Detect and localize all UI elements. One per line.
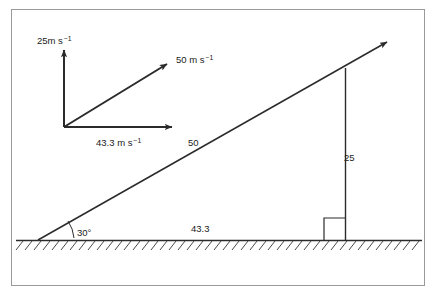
physics-diagram: 25m s−1 50 m s−1 43.3 m s−1 50 25 43.3 3… <box>0 0 436 294</box>
figure-root: 25m s−1 50 m s−1 43.3 m s−1 50 25 43.3 3… <box>0 0 436 294</box>
vertical-height-label: 25 <box>344 152 355 163</box>
base-length-label: 43.3 <box>191 223 210 234</box>
hypotenuse-length-label: 50 <box>188 137 199 148</box>
angle-label: 30° <box>77 227 92 238</box>
